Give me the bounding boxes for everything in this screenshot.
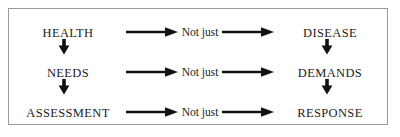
diagram-row: ASSESSMENT Not just RESPONSE — [9, 102, 387, 122]
diagram-grid: HEALTH Not just DISEASE — [9, 9, 387, 124]
row-left-cell: ASSESSMENT — [9, 103, 127, 121]
figure-container: HEALTH Not just DISEASE — [0, 0, 400, 137]
row-right-cell: DISEASE — [273, 23, 387, 41]
row-middle-cell: Not just — [127, 65, 273, 79]
arrow-right-icon — [221, 106, 275, 118]
term-label: DISEASE — [303, 26, 357, 40]
not-just-label: Not just — [179, 25, 222, 39]
arrow-right-icon — [125, 106, 179, 118]
arrow-right-icon — [221, 66, 275, 78]
term-label: RESPONSE — [297, 106, 362, 120]
arrow-right-icon — [125, 66, 179, 78]
term-label: DEMANDS — [298, 66, 362, 80]
term-label: HEALTH — [43, 26, 94, 40]
arrow-right-icon — [221, 26, 275, 38]
row-left-cell: NEEDS — [9, 63, 127, 81]
diagram-frame: HEALTH Not just DISEASE — [8, 8, 388, 125]
term-label: NEEDS — [47, 66, 89, 80]
arrow-right-icon — [125, 26, 179, 38]
row-right-cell: RESPONSE — [273, 103, 387, 121]
row-right-cell: DEMANDS — [273, 63, 387, 81]
term-label: ASSESSMENT — [26, 106, 109, 120]
diagram-row: HEALTH Not just DISEASE — [9, 22, 387, 42]
diagram-row: NEEDS Not just DEMANDS — [9, 62, 387, 82]
row-left-cell: HEALTH — [9, 23, 127, 41]
row-middle-cell: Not just — [127, 105, 273, 119]
not-just-label: Not just — [179, 105, 222, 119]
row-middle-cell: Not just — [127, 25, 273, 39]
not-just-label: Not just — [179, 65, 222, 79]
